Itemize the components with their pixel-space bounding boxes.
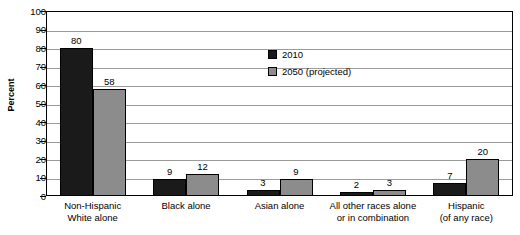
bar (433, 183, 466, 196)
x-axis-category-label: Non-Hispanic White alone (40, 200, 145, 223)
bar (280, 179, 313, 196)
bar-value-label: 3 (247, 178, 280, 188)
legend: 20102050 (projected) (268, 48, 351, 82)
bar (373, 190, 406, 196)
bar-series-container: 80589123923720 (46, 11, 513, 196)
bar (60, 48, 93, 196)
bar-value-label: 2 (340, 180, 373, 190)
bar (93, 89, 126, 196)
x-axis-labels: Non-Hispanic White aloneBlack aloneAsian… (46, 200, 513, 232)
y-axis-tick-mark (40, 196, 46, 197)
legend-label: 2050 (projected) (282, 67, 351, 77)
bar (247, 190, 280, 196)
bar-value-label: 80 (60, 36, 93, 46)
x-axis-category-label: Hispanic (of any race) (414, 200, 519, 223)
legend-item: 2010 (268, 48, 351, 61)
bar-chart: Percent 1009080706050403020100 805891239… (0, 0, 520, 235)
bar-value-label: 12 (186, 162, 219, 172)
bar-value-label: 20 (466, 147, 499, 157)
bar (153, 179, 186, 196)
legend-swatch (268, 67, 277, 76)
x-axis-category-label: Black alone (133, 200, 238, 212)
bar (186, 174, 219, 196)
legend-item: 2050 (projected) (268, 65, 351, 78)
bar (466, 159, 499, 196)
bar-value-label: 3 (373, 178, 406, 188)
bar-value-label: 7 (433, 171, 466, 181)
legend-swatch (268, 50, 277, 59)
bar (340, 192, 373, 196)
x-axis-category-label: Asian alone (227, 200, 332, 212)
legend-label: 2010 (282, 50, 303, 60)
bar-value-label: 58 (93, 77, 126, 87)
bar-value-label: 9 (280, 167, 313, 177)
bar-value-label: 9 (153, 167, 186, 177)
x-axis-category-label: All other races alone or in combination (320, 200, 425, 223)
